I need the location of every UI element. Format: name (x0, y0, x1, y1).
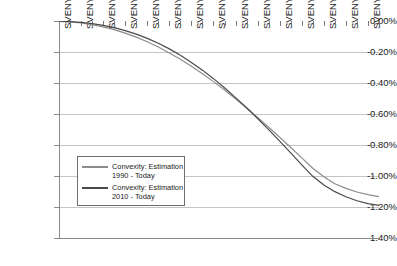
legend-swatch-1990 (82, 166, 108, 168)
legend-label-1990-line1: Convexity: Estimation (112, 162, 183, 171)
legend-label-2010-line2: 2010 - Today (112, 192, 155, 201)
legend-swatch-2010 (82, 187, 108, 189)
chart-legend: Convexity: Estimation 1990 - Today Conve… (77, 156, 185, 206)
legend-label-2010-line1: Convexity: Estimation (112, 183, 183, 192)
legend-label-1990-line2: 1990 - Today (112, 171, 155, 180)
legend-label-1990: Convexity: Estimation 1990 - Today (112, 162, 183, 181)
legend-label-2010: Convexity: Estimation 2010 - Today (112, 183, 183, 202)
legend-entry-0: Convexity: Estimation 1990 - Today (82, 162, 183, 181)
convexity-line-chart: 0.00%-0.20%-0.40%-0.60%-0.80%-1.00%-1.20… (0, 0, 397, 266)
series-plot (59, 21, 379, 239)
legend-entry-1: Convexity: Estimation 2010 - Today (82, 183, 183, 202)
x-axis-tick (379, 21, 380, 26)
